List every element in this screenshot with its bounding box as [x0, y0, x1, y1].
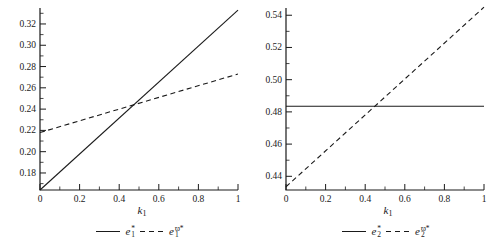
legend-solid-line-sample: [96, 231, 120, 232]
x-tick-label: 0.8: [192, 194, 204, 204]
plot-e2-canvas: 00.20.40.60.810.440.460.480.500.520.54: [246, 0, 492, 204]
x-tick-label: 1: [236, 194, 241, 204]
legend-var-sub: 2: [377, 232, 381, 238]
y-tick-label: 0.20: [19, 147, 36, 157]
y-tick-label: 0.22: [19, 125, 36, 135]
figure-e1: 00.20.40.60.810.180.200.220.240.260.280.…: [0, 0, 246, 248]
y-tick-label: 0.30: [19, 40, 36, 50]
legend-var-base: e: [371, 225, 376, 237]
x-tick-label: 1: [482, 194, 487, 204]
legend-var-base: e: [125, 225, 130, 237]
y-tick-label: 0.18: [19, 168, 36, 178]
y-tick-label: 0.24: [19, 104, 36, 114]
y-tick-label: 0.26: [19, 83, 36, 93]
legend-label-e2-star: e*2: [371, 225, 381, 237]
series-e2-pomega-star: [286, 7, 484, 187]
x-axis-label-e2: k1: [246, 204, 492, 220]
y-tick-label: 0.54: [265, 10, 282, 20]
series-e1-pomega-star: [40, 74, 238, 133]
legend-dashed-line-sample: [140, 231, 164, 232]
figure-e2: 00.20.40.60.810.440.460.480.500.520.54 k…: [246, 0, 492, 248]
plot-e1-canvas: 00.20.40.60.810.180.200.220.240.260.280.…: [0, 0, 246, 204]
y-tick-label: 0.52: [265, 42, 282, 52]
legend-label-e1-pomega-star: eϖ*1: [169, 225, 184, 237]
legend-label-e1-star: e*1: [125, 225, 135, 237]
legend-var-sub: 2: [421, 232, 425, 238]
x-tick-label: 0.4: [113, 194, 125, 204]
y-tick-label: 0.50: [265, 75, 282, 85]
series-e1-star: [40, 10, 238, 190]
legend-e2: e*2 eϖ*2: [246, 225, 492, 237]
x-tick-label: 0.4: [359, 194, 371, 204]
legend-var-base: e: [415, 225, 420, 237]
y-tick-label: 0.44: [265, 171, 282, 181]
x-tick-label: 0: [284, 194, 289, 204]
legend-label-e2-pomega-star: eϖ*2: [415, 225, 430, 237]
legend-solid-line-sample: [342, 231, 366, 232]
y-tick-label: 0.46: [265, 139, 282, 149]
legend-var-base: e: [169, 225, 174, 237]
axes: [286, 8, 484, 190]
x-label-subscript: 1: [142, 209, 146, 218]
legend-dashed-line-sample: [386, 231, 410, 232]
legend-e1: e*1 eϖ*1: [0, 225, 246, 237]
x-tick-label: 0.6: [399, 194, 411, 204]
x-tick-label: 0.2: [320, 194, 332, 204]
y-tick-label: 0.28: [19, 62, 36, 72]
x-axis-label-e1: k1: [0, 204, 246, 220]
legend-var-sub: 1: [131, 232, 135, 238]
x-tick-label: 0.2: [74, 194, 86, 204]
y-tick-label: 0.32: [19, 19, 36, 29]
legend-var-sub: 1: [175, 232, 179, 238]
charts-container: 00.20.40.60.810.180.200.220.240.260.280.…: [0, 0, 492, 248]
x-tick-label: 0.6: [153, 194, 165, 204]
x-tick-label: 0.8: [438, 194, 450, 204]
y-tick-label: 0.48: [265, 107, 282, 117]
x-label-subscript: 1: [388, 209, 392, 218]
x-tick-label: 0: [38, 194, 43, 204]
